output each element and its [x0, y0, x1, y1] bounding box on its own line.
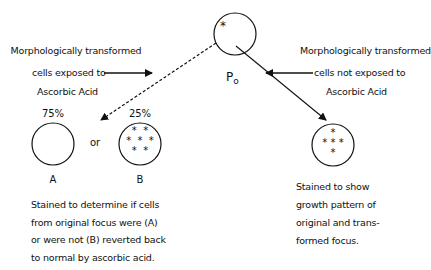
left-caption-line: or were not (B) reverted back — [31, 231, 166, 249]
outcome-b-label: B — [130, 174, 150, 185]
outcome-a-label: A — [43, 174, 63, 185]
left-annotation-line-3: Ascorbic Acid — [37, 84, 98, 99]
left-caption-line: to normal by ascorbic acid. — [31, 249, 166, 267]
top-node-asterisk: * — [220, 19, 226, 33]
left-caption: Stained to determine if cells from origi… — [31, 196, 166, 266]
outcome-a-percent: 75% — [33, 108, 73, 119]
outcome-b-percent: 25% — [120, 108, 160, 119]
asterisk-row: * — [312, 148, 354, 158]
right-caption-line: Stained to show — [296, 178, 379, 196]
right-caption-line: formed focus. — [296, 232, 379, 250]
outcome-b-asterisks: * * * * * * * — [119, 126, 161, 156]
top-node-label-subscript: o — [233, 76, 239, 86]
left-caption-line: from original focus were (A) — [31, 214, 166, 232]
right-caption-line: growth pattern of — [296, 196, 379, 214]
right-annotation-line-1: Morphologically transformed — [300, 43, 431, 58]
right-caption-line: original and trans- — [296, 214, 379, 232]
right-circle-asterisks: * * * * * — [312, 128, 354, 158]
left-caption-line: Stained to determine if cells — [31, 196, 166, 214]
right-annotation-line-3: Ascorbic Acid — [326, 84, 387, 99]
right-caption: Stained to show growth pattern of origin… — [296, 178, 379, 250]
right-annotation-line-2: cells not exposed to — [314, 65, 405, 80]
left-annotation-line-2: cells exposed to — [32, 65, 106, 80]
outcome-a-circle — [32, 123, 74, 165]
left-annotation-line: Morphologically transformed — [2, 43, 150, 58]
left-annotation: Morphologically transformed — [2, 43, 150, 58]
or-connector: or — [90, 137, 100, 148]
asterisk-row: * * — [119, 146, 161, 156]
top-node-label: Po — [226, 70, 239, 86]
